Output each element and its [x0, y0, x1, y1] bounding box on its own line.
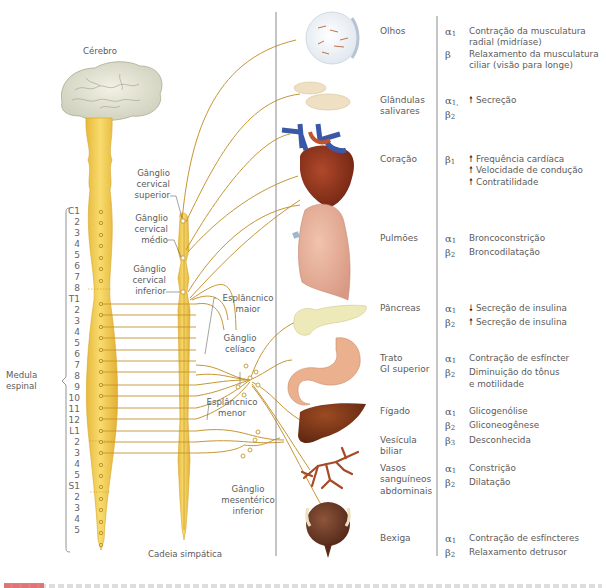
receptor-beta2: β2 — [445, 420, 469, 434]
receptor-row: β2 Relaxamento detrusor — [445, 547, 579, 561]
organ-name-abdominal-blood-vessels: Vasos sanguíneos abdominais — [380, 463, 432, 497]
effect-line: radial (midríase) — [469, 37, 586, 48]
segment-label: 4 — [58, 514, 80, 525]
segment-label: 3 — [58, 448, 80, 459]
receptor-effect: Relaxamento da musculaturaciliar (visão … — [469, 49, 599, 72]
organ-name-line: Bexiga — [380, 533, 411, 544]
receptor-row: α1, 🠕Secreção — [445, 95, 516, 109]
label-line: Gânglio — [120, 168, 170, 179]
effect-line: Diminuição do tônus — [469, 367, 560, 378]
label-line: Gânglio — [215, 484, 281, 495]
label-line: Medula — [6, 370, 56, 381]
receptor-beta: β — [445, 49, 469, 72]
caption-text-fragment — [4, 584, 602, 588]
arrow-down-icon: 🠗 — [469, 303, 473, 313]
segment-label: T1 — [58, 294, 80, 305]
receptor-row: α1 Contração de esfíncteres — [445, 533, 579, 547]
organ-name-line: Vesícula — [380, 435, 417, 446]
segment-label: L1 — [58, 426, 80, 437]
receptor-effect: Constrição — [469, 463, 516, 477]
segment-label: 2 — [58, 305, 80, 316]
organ-name-line: abdominais — [380, 486, 432, 497]
label-spinal-cord: Medula espinal — [6, 370, 56, 392]
receptor-alpha1: α1 — [445, 353, 469, 367]
label-superior-cervical-ganglion: Gânglio cervical superior — [120, 168, 170, 201]
receptor-subscript: 1, — [452, 99, 459, 107]
organ-name-line: Pulmões — [380, 233, 418, 244]
label-brain: Cérebro — [60, 46, 140, 57]
effect-line: Secreção — [476, 95, 516, 105]
lungs-illustration — [292, 204, 350, 300]
bladder-illustration — [306, 502, 350, 558]
organ-name-line: salivares — [380, 106, 425, 117]
receptor-beta2: β2 — [445, 109, 469, 123]
label-middle-cervical-ganglion: Gânglio cervical médio — [118, 213, 168, 246]
receptor-effect: 🠕Secreção de insulina — [469, 317, 567, 331]
arrow-up-icon: 🠕 — [469, 154, 473, 164]
effect-line: ciliar (visão para longe) — [469, 60, 599, 71]
receptor-beta2: β2 — [445, 247, 469, 261]
label-line: superior — [120, 190, 170, 201]
effect-line: e motilidade — [469, 379, 560, 390]
arrow-up-icon: 🠕 — [469, 165, 473, 175]
organ-name-line: Coração — [380, 154, 417, 165]
heart-illustration — [282, 124, 354, 208]
receptor-beta2: β2 — [445, 317, 469, 331]
organ-name-line: Fígado — [380, 406, 410, 417]
receptor-subscript: 1 — [452, 237, 456, 245]
organ-receptors-bladder: α1 Contração de esfíncteres β2 Relaxamen… — [445, 533, 579, 562]
segment-label: 11 — [58, 404, 80, 415]
label-lesser-splanchnic: Esplâncnico menor — [200, 397, 264, 419]
label-sympathetic-chain: Cadeia simpática — [140, 549, 230, 560]
organ-receptors-pancreas: α1 🠗Secreção de insulina β2 🠕Secreção de… — [445, 303, 567, 332]
receptor-effect: Dilatação — [469, 477, 511, 491]
receptor-alpha1: α1 — [445, 303, 469, 317]
receptor-beta2: β2 — [445, 367, 469, 390]
receptor-alpha1: α1 — [445, 26, 469, 49]
receptor-symbol: α — [445, 233, 452, 244]
diagram-illustration — [0, 0, 606, 588]
segment-label: 5 — [58, 525, 80, 536]
organ-receptors-lungs: α1 Broncoconstrição β2 Broncodilatação — [445, 233, 545, 262]
label-greater-splanchnic: Esplâncnico maior — [216, 293, 280, 315]
organ-name-line: Trato — [380, 353, 430, 364]
organ-name-pancreas: Pâncreas — [380, 303, 420, 314]
label-inferior-cervical-ganglion: Gânglio cervical inferior — [116, 264, 166, 297]
label-inferior-mesenteric-ganglion: Gânglio mesentérico inferior — [215, 484, 281, 517]
label-line: maior — [216, 304, 280, 315]
label-celiac-ganglion: Gânglio celíaco — [216, 333, 264, 355]
effect-line: 🠕Frequência cardíaca — [469, 154, 583, 165]
segment-label: 3 — [58, 228, 80, 239]
effect-text: Contratilidade — [476, 177, 538, 187]
arrow-up-icon: 🠕 — [469, 177, 473, 187]
organ-receptors-abdominal-blood-vessels: α1 Constrição β2 Dilatação — [445, 463, 516, 492]
segment-label: 6 — [58, 261, 80, 272]
effect-text: Secreção de insulina — [476, 317, 567, 327]
receptor-subscript: 1 — [452, 467, 456, 475]
segment-label: 8 — [58, 283, 80, 294]
receptor-effect: Diminuição do tônuse motilidade — [469, 367, 560, 390]
label-line: Esplâncnico — [216, 293, 280, 304]
receptor-subscript: 1 — [452, 307, 456, 315]
label-line: inferior — [116, 286, 166, 297]
organ-receptors-gallbladder: β3 Desconhecida — [445, 435, 531, 449]
label-line: Gânglio — [118, 213, 168, 224]
label-line: inferior — [215, 506, 281, 517]
liver-illustration — [298, 403, 366, 443]
receptor-symbol: α — [445, 26, 452, 37]
arrow-up-icon: 🠕 — [469, 317, 473, 327]
receptor-symbol: β — [445, 49, 451, 60]
segment-label: S1 — [58, 481, 80, 492]
salivary-glands-illustration — [294, 82, 350, 110]
organ-receptors-upper-gi-tract: α1 Contração de esfíncter β2 Diminuição … — [445, 353, 569, 390]
receptor-row: α1 Contração de esfíncter — [445, 353, 569, 367]
receptor-subscript: 1 — [452, 30, 456, 38]
segment-label: 9 — [58, 382, 80, 393]
receptor-subscript: 1 — [452, 410, 456, 418]
label-line: cervical — [118, 224, 168, 235]
receptor-effect: Broncodilatação — [469, 247, 540, 261]
receptor-subscript: 2 — [451, 424, 455, 432]
receptor-alpha1: α1 — [445, 406, 469, 420]
receptor-alpha1: α1 — [445, 233, 469, 247]
receptor-symbol: α — [445, 95, 452, 106]
